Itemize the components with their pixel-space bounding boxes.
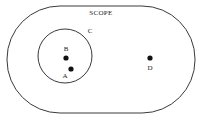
set-diagram-canvas: SCOPE C B A D	[0, 0, 202, 121]
diagram-svg: SCOPE C B A D	[0, 0, 202, 121]
point-b-label: B	[64, 45, 69, 53]
point-d-label: D	[147, 64, 152, 72]
point-a-label: A	[62, 72, 67, 80]
point-d-dot	[147, 55, 152, 60]
set-c-label: C	[88, 27, 93, 35]
point-b-dot	[63, 55, 68, 60]
scope-label: SCOPE	[89, 9, 112, 17]
point-a-dot	[68, 66, 73, 71]
scope-boundary	[7, 6, 195, 113]
